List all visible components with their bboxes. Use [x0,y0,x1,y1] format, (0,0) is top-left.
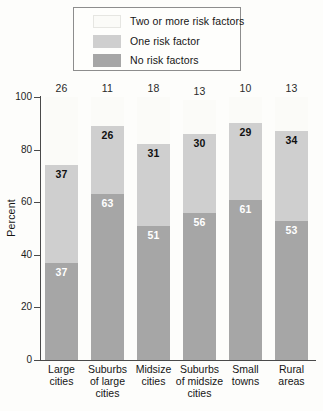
bar-segment-one-risk-factor: 34 [275,131,308,220]
bar-segment-value: 34 [275,134,308,146]
bar-segment-one-risk-factor: 37 [45,165,78,262]
y-axis-title: Percent [5,183,17,253]
x-axis-line [40,360,316,361]
y-axis-tick [34,255,40,256]
legend-swatch-one-risk-factor [93,35,121,48]
bar-large-cities[interactable]: 263737 [45,97,78,360]
plot-area: 263737112663183151133056102961133453 [41,97,313,360]
bar-midsize-cities[interactable]: 183151 [137,97,170,360]
bar-segment-two-or-more-risk-factors: 13 [275,97,308,131]
legend-item-no-risk-factors: No risk factors [74,50,240,70]
bar-segment-value: 63 [91,197,124,209]
bar-segment-two-or-more-risk-factors: 18 [137,97,170,144]
bar-segment-two-or-more-risk-factors: 13 [183,100,216,134]
legend-label-one-risk-factor: One risk factor [130,35,200,47]
bar-segment-one-risk-factor: 30 [183,134,216,213]
bar-segment-two-or-more-risk-factors: 11 [91,97,124,126]
bar-segment-value: 31 [137,147,170,159]
x-axis-category-label: Ruralareas [263,364,321,388]
y-axis-tick-label: 0 [2,354,32,365]
y-axis-tick [34,307,40,308]
y-axis-tick [34,360,40,361]
bar-segment-one-risk-factor: 29 [229,123,262,199]
chart-legend: Two or more risk factors One risk factor… [73,7,241,71]
y-axis-tick-label: 100 [2,91,32,102]
bar-segment-value: 61 [229,203,262,215]
bar-segment-value: 26 [91,129,124,141]
bar-segment-value: 10 [229,82,262,94]
bar-segment-value: 53 [275,224,308,236]
bar-segment-value: 13 [183,85,216,97]
y-axis-tick [34,202,40,203]
legend-swatch-no-risk-factors [93,54,121,67]
stacked-bar-chart: Two or more risk factors One risk factor… [0,0,323,411]
bar-segment-value: 11 [91,82,124,94]
legend-swatch-two-or-more-risk-factors [93,15,121,28]
y-axis-tick-label: 20 [2,301,32,312]
bar-small-towns[interactable]: 102961 [229,97,262,360]
bar-segment-value: 56 [183,216,216,228]
bar-segment-no-risk-factors: 53 [275,221,308,360]
bar-segment-value: 37 [45,266,78,278]
legend-label-two-or-more-risk-factors: Two or more risk factors [130,15,244,27]
bar-segment-no-risk-factors: 56 [183,213,216,360]
y-axis-tick [34,150,40,151]
bar-suburbs-of-midsize-cities[interactable]: 133056 [183,100,216,360]
bar-segment-value: 51 [137,229,170,241]
bar-segment-value: 13 [275,82,308,94]
bar-segment-two-or-more-risk-factors: 10 [229,97,262,123]
bar-segment-no-risk-factors: 61 [229,200,262,360]
bar-segment-value: 29 [229,126,262,138]
legend-item-two-or-more-risk-factors: Two or more risk factors [74,11,240,31]
bar-segment-value: 18 [137,82,170,94]
legend-item-one-risk-factor: One risk factor [74,31,240,51]
bar-suburbs-of-large-cities[interactable]: 112663 [91,97,124,360]
bar-segment-value: 26 [45,82,78,94]
y-axis-tick-label: 80 [2,144,32,155]
legend-label-no-risk-factors: No risk factors [130,54,199,66]
y-axis-tick [34,97,40,98]
bar-segment-value: 37 [45,168,78,180]
bar-segment-value: 30 [183,137,216,149]
bar-segment-no-risk-factors: 51 [137,226,170,360]
bar-segment-one-risk-factor: 31 [137,144,170,226]
bar-segment-two-or-more-risk-factors: 26 [45,97,78,165]
bar-segment-one-risk-factor: 26 [91,126,124,194]
bar-segment-no-risk-factors: 63 [91,194,124,360]
bar-segment-no-risk-factors: 37 [45,263,78,360]
bar-rural-areas[interactable]: 133453 [275,97,308,360]
